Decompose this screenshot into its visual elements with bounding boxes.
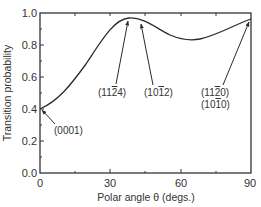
x-tick-label: 0 — [37, 177, 43, 189]
x-tick-labels: 0 30 60 90 — [37, 177, 256, 189]
x-tick-label: 60 — [175, 177, 187, 189]
annotation-1010: (1010) — [201, 99, 230, 110]
arrow-1120 — [223, 22, 249, 85]
annotation-1124: (1124) — [98, 87, 126, 98]
annotation-0001: (0001) — [54, 125, 83, 136]
y-axis-title: Transition probability — [1, 44, 13, 141]
y-tick-label: 0.0 — [22, 167, 37, 179]
x-tick-label: 90 — [244, 177, 256, 189]
transition-probability-chart: 1.0 0.8 0.6 0.4 0.2 0.0 0 30 60 90 Polar… — [0, 0, 261, 207]
x-axis-title: Polar angle θ (degs.) — [97, 191, 194, 203]
y-tick-label: 0.2 — [22, 135, 37, 147]
annotations: (0001) (1124) (1012) (1120) (1010) — [54, 87, 230, 136]
annotation-1012: (1012) — [144, 87, 173, 98]
y-tick-label: 1.0 — [22, 7, 37, 19]
y-tick-labels: 1.0 0.8 0.6 0.4 0.2 0.0 — [22, 7, 37, 179]
y-tick-label: 0.4 — [22, 103, 37, 115]
x-tick-label: 30 — [104, 177, 116, 189]
arrow-1124 — [116, 21, 128, 84]
arrow-1012 — [141, 24, 153, 85]
y-tick-label: 0.8 — [22, 39, 37, 51]
arrow-0001 — [42, 110, 55, 124]
y-tick-label: 0.6 — [22, 71, 37, 83]
annotation-1120: (1120) — [201, 87, 229, 98]
